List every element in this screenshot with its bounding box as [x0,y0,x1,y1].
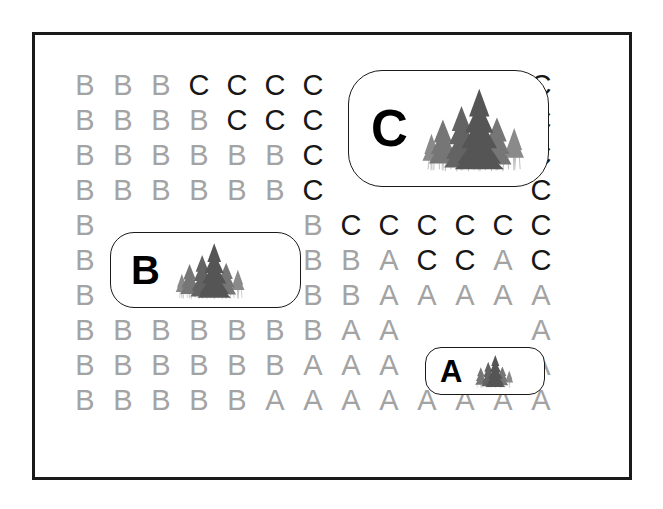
callout-letter-b: B [131,250,160,290]
grid-cell-b-r1-c2: B [108,70,138,100]
grid-cell-a-r8-c8: A [336,315,366,345]
grid-cell-a-r6-c9: A [374,245,404,275]
conifer-forest-stand-icon-a [471,351,517,391]
grid-cell-b-r7-c7: B [298,280,328,310]
grid-cell-b-r9-c2: B [108,350,138,380]
grid-cell-a-r7-c12: A [488,280,518,310]
grid-cell-b-r10-c4: B [184,385,214,415]
grid-cell-a-r9-c7: A [298,350,328,380]
callout-box-c[interactable]: C [348,70,549,187]
callout-letter-c: C [371,103,408,154]
grid-cell-a-r7-c10: A [412,280,442,310]
grid-cell-b-r2-c2: B [108,105,138,135]
grid-cell-c-r1-c6: C [260,70,290,100]
grid-cell-c-r5-c9: C [374,210,404,240]
grid-cell-c-r1-c4: C [184,70,214,100]
grid-cell-b-r5-c7: B [298,210,328,240]
grid-cell-a-r7-c11: A [450,280,480,310]
grid-cell-b-r7-c8: B [336,280,366,310]
grid-cell-b-r8-c4: B [184,315,214,345]
grid-cell-b-r8-c5: B [222,315,252,345]
grid-cell-b-r10-c3: B [146,385,176,415]
grid-cell-c-r2-c6: C [260,105,290,135]
grid-cell-c-r1-c5: C [222,70,252,100]
grid-cell-c-r6-c11: C [450,245,480,275]
grid-cell-b-r9-c3: B [146,350,176,380]
grid-cell-c-r6-c10: C [412,245,442,275]
letter-grid: BBBCCCCCBBBBCCCCBBBBBBCCBBBBBBCCBBCCCCCC… [0,0,663,509]
grid-cell-b-r6-c7: B [298,245,328,275]
grid-cell-b-r8-c7: B [298,315,328,345]
grid-cell-b-r1-c1: B [70,70,100,100]
grid-cell-a-r7-c9: A [374,280,404,310]
grid-cell-a-r8-c9: A [374,315,404,345]
grid-cell-b-r8-c3: B [146,315,176,345]
grid-cell-c-r5-c8: C [336,210,366,240]
grid-cell-c-r5-c13: C [526,210,556,240]
grid-cell-c-r4-c7: C [298,175,328,205]
grid-cell-b-r4-c3: B [146,175,176,205]
grid-cell-c-r5-c12: C [488,210,518,240]
grid-cell-b-r3-c5: B [222,140,252,170]
grid-cell-b-r8-c2: B [108,315,138,345]
grid-cell-a-r9-c8: A [336,350,366,380]
grid-cell-b-r10-c5: B [222,385,252,415]
grid-cell-a-r10-c7: A [298,385,328,415]
grid-cell-b-r4-c4: B [184,175,214,205]
grid-cell-b-r3-c3: B [146,140,176,170]
grid-cell-c-r3-c7: C [298,140,328,170]
grid-cell-a-r6-c12: A [488,245,518,275]
grid-cell-b-r3-c2: B [108,140,138,170]
grid-cell-b-r2-c3: B [146,105,176,135]
grid-cell-b-r8-c6: B [260,315,290,345]
grid-cell-b-r9-c5: B [222,350,252,380]
grid-cell-c-r5-c11: C [450,210,480,240]
grid-cell-b-r4-c2: B [108,175,138,205]
grid-cell-b-r4-c1: B [70,175,100,205]
grid-cell-b-r3-c4: B [184,140,214,170]
grid-cell-c-r6-c13: C [526,245,556,275]
grid-cell-a-r10-c6: A [260,385,290,415]
grid-cell-b-r1-c3: B [146,70,176,100]
grid-cell-c-r1-c7: C [298,70,328,100]
diagram-canvas: BBBCCCCCBBBBCCCCBBBBBBCCBBBBBBCCBBCCCCCC… [0,0,663,509]
conifer-forest-stand-icon-c [418,81,534,177]
grid-cell-c-r2-c7: C [298,105,328,135]
grid-cell-b-r10-c2: B [108,385,138,415]
callout-box-b[interactable]: B [110,232,301,308]
grid-cell-b-r5-c1: B [70,210,100,240]
grid-cell-a-r9-c9: A [374,350,404,380]
grid-cell-b-r3-c6: B [260,140,290,170]
grid-cell-b-r2-c1: B [70,105,100,135]
grid-cell-b-r2-c4: B [184,105,214,135]
grid-cell-c-r5-c10: C [412,210,442,240]
grid-cell-c-r2-c5: C [222,105,252,135]
callout-box-a[interactable]: A [425,347,545,395]
grid-cell-b-r7-c1: B [70,280,100,310]
grid-cell-a-r8-c13: A [526,315,556,345]
callout-letter-a: A [440,356,462,387]
grid-cell-b-r10-c1: B [70,385,100,415]
grid-cell-a-r7-c13: A [526,280,556,310]
grid-cell-b-r9-c4: B [184,350,214,380]
grid-cell-b-r9-c6: B [260,350,290,380]
grid-cell-b-r4-c6: B [260,175,290,205]
grid-cell-b-r8-c1: B [70,315,100,345]
grid-cell-b-r9-c1: B [70,350,100,380]
grid-cell-b-r6-c8: B [336,245,366,275]
conifer-forest-stand-icon-b [170,238,254,303]
grid-cell-b-r4-c5: B [222,175,252,205]
grid-cell-b-r3-c1: B [70,140,100,170]
grid-cell-b-r6-c1: B [70,245,100,275]
grid-cell-a-r10-c9: A [374,385,404,415]
grid-cell-a-r10-c8: A [336,385,366,415]
